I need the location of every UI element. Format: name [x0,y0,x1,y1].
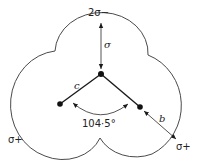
left-charge-label: σ+ [8,134,23,145]
oxygen-atom [98,71,104,77]
bond-angle-arc [73,103,128,115]
top-charge-label: 2σ− [88,7,109,18]
right-charge-label: σ+ [176,141,191,152]
sigma-distance-label: σ [104,39,112,50]
hydrogen-atom-left [57,101,63,107]
water-molecule-diagram: 2σ− σ c b 104·5° σ+ σ+ [0,0,199,165]
bond-c [60,74,101,104]
bond-c-label: c [74,80,80,91]
bond-oh-right [101,74,140,107]
bond-b-label: b [159,113,165,124]
bond-angle-label: 104·5° [82,118,116,129]
molecule-outline [11,13,182,160]
hydrogen-atom-right [137,104,143,110]
